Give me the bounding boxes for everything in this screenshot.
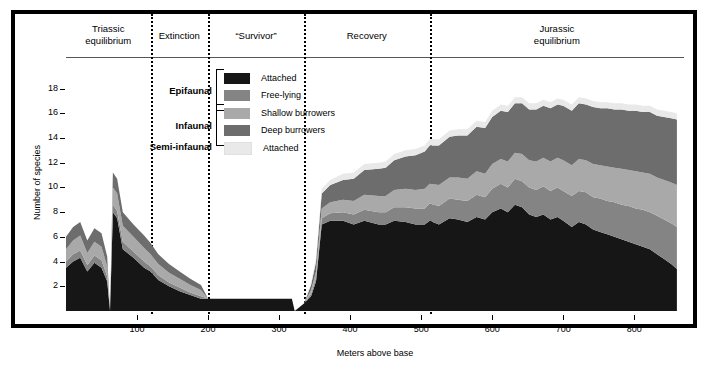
y-tick-mark [60,113,65,114]
x-tick-label: 400 [330,324,370,334]
plot-area: 24681012141618 100200300400500600700800 … [66,70,684,311]
y-tick-mark [60,237,65,238]
x-tick-mark [634,315,635,320]
x-tick-mark [350,315,351,320]
phase-label-2: Extinction [151,14,209,74]
y-tick-label: 14 [32,132,58,142]
x-tick-label: 300 [259,324,299,334]
stacked-area-svg [66,70,684,311]
y-tick-label: 18 [32,83,58,93]
phase-label-4: Recovery [304,14,430,74]
y-tick-label: 2 [32,280,58,290]
y-tick-mark [60,89,65,90]
x-tick-label: 500 [401,324,441,334]
x-tick-label: 100 [117,324,157,334]
x-tick-mark [137,315,138,320]
x-tick-mark [563,315,564,320]
x-tick-mark [279,315,280,320]
x-tick-label: 700 [543,324,583,334]
phase-label-5: Jurassicequilibrium [430,14,684,67]
y-tick-label: 6 [32,231,58,241]
x-tick-label: 200 [188,324,228,334]
phase-label-1: Triassicequilibrium [66,14,151,67]
y-tick-mark [60,212,65,213]
figure-root: TriassicequilibriumExtinction“Survivor”R… [0,0,712,377]
x-tick-mark [208,315,209,320]
y-tick-mark [60,163,65,164]
phase-header-band: TriassicequilibriumExtinction“Survivor”R… [66,14,684,58]
y-tick-mark [60,187,65,188]
x-tick-mark [421,315,422,320]
y-tick-mark [60,262,65,263]
x-tick-mark [492,315,493,320]
x-tick-label: 800 [614,324,654,334]
y-tick-mark [60,138,65,139]
x-axis-title: Meters above base [275,348,475,358]
y-tick-label: 16 [32,107,58,117]
y-tick-mark [60,286,65,287]
x-tick-label: 600 [472,324,512,334]
phase-label-3: “Survivor” [208,14,304,74]
y-axis-title: Number of species [32,145,42,220]
y-tick-label: 4 [32,256,58,266]
